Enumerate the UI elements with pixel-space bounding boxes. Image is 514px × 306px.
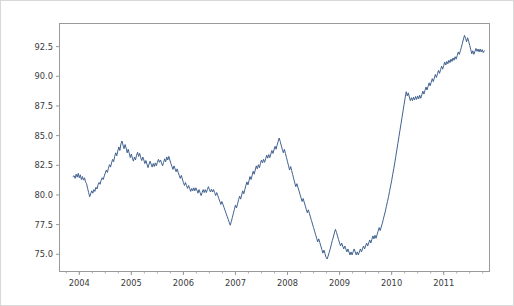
- x-tick-label: 2008: [277, 278, 298, 288]
- x-tick-label: 2005: [121, 278, 142, 288]
- line-chart: 2004200520062007200820092010201175.077.5…: [1, 1, 514, 306]
- y-tick-label: 90.0: [35, 71, 53, 81]
- x-tick-label: 2010: [381, 278, 402, 288]
- x-tick-label: 2009: [329, 278, 350, 288]
- y-tick-label: 80.0: [35, 190, 53, 200]
- y-tick-label: 92.5: [35, 42, 53, 52]
- x-tick-label: 2007: [225, 278, 246, 288]
- y-tick-label: 75.0: [35, 249, 53, 259]
- y-tick-label: 82.5: [35, 160, 53, 170]
- x-tick-label: 2011: [433, 278, 454, 288]
- x-tick-label: 2006: [173, 278, 194, 288]
- y-tick-label: 85.0: [35, 131, 53, 141]
- y-tick-label: 87.5: [35, 101, 53, 111]
- x-tick-label: 2004: [69, 278, 90, 288]
- figure-container: 2004200520062007200820092010201175.077.5…: [0, 0, 514, 306]
- y-tick-label: 77.5: [35, 220, 53, 230]
